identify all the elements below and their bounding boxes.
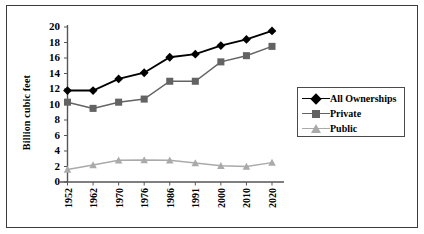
chart-series-group bbox=[63, 26, 276, 172]
legend-label: Public bbox=[330, 123, 357, 134]
data-point-diamond bbox=[165, 53, 174, 62]
legend-item[interactable]: Public bbox=[298, 121, 404, 136]
data-point-diamond bbox=[89, 86, 98, 95]
chart-series bbox=[64, 156, 276, 173]
data-point-square bbox=[268, 43, 275, 50]
data-point-square bbox=[217, 58, 224, 65]
legend-item[interactable]: All Ownerships bbox=[298, 91, 404, 106]
data-point-square bbox=[115, 99, 122, 106]
chart-legend: All OwnershipsPrivatePublic bbox=[297, 87, 405, 137]
data-point-diamond bbox=[268, 26, 277, 35]
chart-figure: Billion cubic feet 02468101214161820 195… bbox=[0, 0, 424, 234]
data-point-square bbox=[141, 96, 148, 103]
data-point-diamond bbox=[140, 68, 149, 77]
legend-marker-square-icon bbox=[312, 110, 320, 118]
legend-marker-diamond-icon bbox=[310, 93, 321, 104]
legend-symbol bbox=[302, 107, 330, 121]
legend-symbol bbox=[302, 122, 330, 136]
data-point-diamond bbox=[242, 35, 251, 44]
data-point-square bbox=[243, 52, 250, 59]
data-point-diamond bbox=[216, 41, 225, 50]
legend-label: All Ownerships bbox=[330, 93, 396, 104]
data-point-diamond bbox=[191, 50, 200, 59]
data-point-square bbox=[192, 78, 199, 85]
legend-symbol bbox=[302, 92, 330, 106]
data-point-square bbox=[64, 99, 71, 106]
legend-item[interactable]: Private bbox=[298, 106, 404, 121]
data-point-square bbox=[166, 78, 173, 85]
data-point-diamond bbox=[63, 86, 72, 95]
legend-marker-triangle-icon bbox=[311, 124, 321, 133]
data-point-diamond bbox=[114, 75, 123, 84]
data-point-square bbox=[90, 105, 97, 112]
legend-label: Private bbox=[330, 108, 361, 119]
